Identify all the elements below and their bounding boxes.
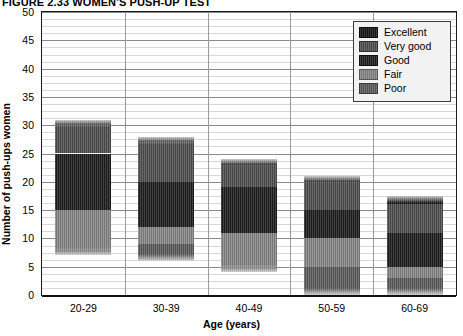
bar-bottom-fade (304, 288, 360, 295)
segment-texture (221, 187, 277, 232)
bar-20-29 (55, 120, 111, 256)
legend-item-fair: Fair (359, 68, 445, 81)
x-axis-title: Age (years) (0, 318, 463, 330)
segment-texture (304, 210, 360, 238)
swatch-texture (360, 56, 377, 65)
bar-segment-good (221, 187, 277, 232)
bar-60-69 (387, 196, 443, 295)
bar-segment-fair (138, 227, 194, 244)
segment-texture (55, 210, 111, 250)
gridline-minor (42, 104, 456, 105)
segment-texture (221, 165, 277, 188)
bar-segment-very-good (55, 125, 111, 153)
gridline-minor (42, 111, 456, 112)
x-axis-tick-label: 50-59 (292, 302, 372, 314)
legend-item-excellent: Excellent (359, 26, 445, 39)
swatch-texture (360, 42, 377, 51)
segment-texture (387, 233, 443, 267)
y-axis-tick-label: 20 (6, 177, 34, 187)
legend-swatch (359, 55, 378, 66)
bar-bottom-fade (221, 265, 277, 272)
segment-texture (55, 154, 111, 211)
segment-texture (221, 233, 277, 267)
legend-swatch (359, 83, 378, 94)
bar-top-fade (221, 159, 277, 166)
bar-segment-fair (221, 233, 277, 267)
bar-bottom-fade (55, 248, 111, 255)
swatch-texture (360, 28, 377, 37)
chart-title: FIGURE 2.33 WOMEN'S PUSH-UP TEST (2, 0, 442, 8)
legend-item-good: Good (359, 54, 445, 67)
bar-30-39 (138, 137, 194, 262)
segment-texture (387, 267, 443, 278)
y-axis-tick-label: 0 (6, 290, 34, 300)
gridline-vertical (208, 12, 209, 295)
y-axis-tick-label: 40 (6, 64, 34, 74)
chart-page: FIGURE 2.33 WOMEN'S PUSH-UP TEST Number … (0, 0, 463, 336)
bar-bottom-fade (387, 288, 443, 295)
segment-texture (387, 204, 443, 232)
y-axis-tick-label: 5 (6, 262, 34, 272)
swatch-texture (360, 70, 377, 79)
segment-texture (138, 182, 194, 227)
segment-texture (304, 182, 360, 210)
bar-segment-good (55, 154, 111, 211)
x-axis-tick-label: 40-49 (209, 302, 289, 314)
gridline-major (42, 295, 456, 297)
bar-top-fade (55, 120, 111, 127)
gridline-vertical (125, 12, 126, 295)
bar-segment-fair (55, 210, 111, 250)
bar-segment-very-good (387, 204, 443, 232)
bar-top-fade (138, 137, 194, 144)
y-axis-tick-label: 30 (6, 120, 34, 130)
bar-segment-very-good (221, 165, 277, 188)
bar-40-49 (221, 159, 277, 272)
bar-bottom-fade (138, 254, 194, 261)
y-axis-tick-label: 45 (6, 35, 34, 45)
bar-50-59 (304, 176, 360, 295)
gridline-minor (42, 19, 456, 20)
bar-segment-very-good (138, 142, 194, 182)
legend-label: Very good (384, 41, 431, 52)
x-axis-tick-label: 20-29 (43, 302, 123, 314)
legend-label: Good (384, 55, 410, 66)
x-axis-tick-label: 60-69 (375, 302, 455, 314)
y-axis-tick-label: 15 (6, 205, 34, 215)
segment-texture (138, 227, 194, 244)
y-axis-tick-label: 50 (6, 7, 34, 17)
legend-label: Fair (384, 69, 402, 80)
segment-texture (304, 238, 360, 266)
bar-top-fade (304, 176, 360, 183)
segment-texture (55, 125, 111, 153)
swatch-texture (360, 84, 377, 93)
gridline-major (42, 12, 456, 13)
legend-item-poor: Poor (359, 82, 445, 95)
legend-box: ExcellentVery goodGoodFairPoor (353, 21, 451, 102)
legend-label: Excellent (384, 27, 427, 38)
y-axis-tick-label: 25 (6, 149, 34, 159)
bar-segment-good (138, 182, 194, 227)
legend-label: Poor (384, 83, 406, 94)
y-axis-tick-label: 35 (6, 92, 34, 102)
bar-segment-good (304, 210, 360, 238)
gridline-vertical (290, 12, 291, 295)
legend-item-very-good: Very good (359, 40, 445, 53)
legend-swatch (359, 69, 378, 80)
bar-segment-fair (304, 238, 360, 266)
bar-segment-fair (387, 267, 443, 278)
legend-swatch (359, 27, 378, 38)
bar-segment-very-good (304, 182, 360, 210)
legend-swatch (359, 41, 378, 52)
bar-segment-good (387, 233, 443, 267)
x-axis-tick-label: 30-39 (126, 302, 206, 314)
bar-top-fade (387, 196, 443, 203)
y-axis-tick-label: 10 (6, 233, 34, 243)
segment-texture (138, 142, 194, 182)
